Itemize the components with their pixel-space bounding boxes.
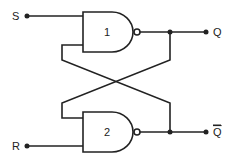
gate-2-number: 2	[104, 126, 110, 138]
q-terminal-dot	[204, 30, 209, 35]
qbar-label: Q	[213, 126, 222, 138]
nand-gate-1-bubble	[134, 29, 140, 35]
q-junction-dot	[168, 30, 173, 35]
gate-1-number: 1	[104, 26, 110, 38]
s-terminal-dot	[25, 14, 30, 19]
r-terminal-dot	[25, 144, 30, 149]
s-label: S	[12, 10, 19, 22]
q-label: Q	[213, 26, 222, 38]
sr-latch-diagram: S R Q Q 1 2	[0, 0, 235, 167]
nand-gate-2-bubble	[134, 129, 140, 135]
qbar-terminal-dot	[204, 130, 209, 135]
qbar-junction-dot	[168, 130, 173, 135]
r-label: R	[12, 140, 20, 152]
